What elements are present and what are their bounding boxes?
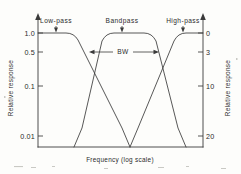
x-axis-title: Frequency (log scale) <box>86 156 154 164</box>
annotation-label-low-pass: Low-pass <box>40 17 72 25</box>
left-tick-label-3: 0.1 <box>24 82 35 91</box>
right-tick-label-1: 0 <box>206 29 210 38</box>
annotation-label-bandpass: Bandpass <box>106 17 139 25</box>
left-tick-label-1: 1.0 <box>24 29 35 38</box>
left-axis-title: Relative response <box>7 60 15 116</box>
bandwidth-label: BW <box>117 48 129 55</box>
right-axis-title: Relative response <box>224 60 232 116</box>
left-tick-label-2: 0.5 <box>24 48 35 57</box>
filter-response-chart: 1.0 0.5 0.1 0.01 0 3 10 20 Relative resp… <box>0 0 241 174</box>
annotation-label-high-pass: High-pass <box>166 17 200 25</box>
left-tick-label-4: 0.01 <box>20 132 35 141</box>
right-tick-label-4: 20 <box>206 132 214 141</box>
filter-response-figure: 1.0 0.5 0.1 0.01 0 3 10 20 Relative resp… <box>0 0 241 174</box>
right-tick-label-3: 10 <box>206 82 214 91</box>
right-tick-label-2: 3 <box>206 48 210 57</box>
chart-background <box>0 0 241 174</box>
